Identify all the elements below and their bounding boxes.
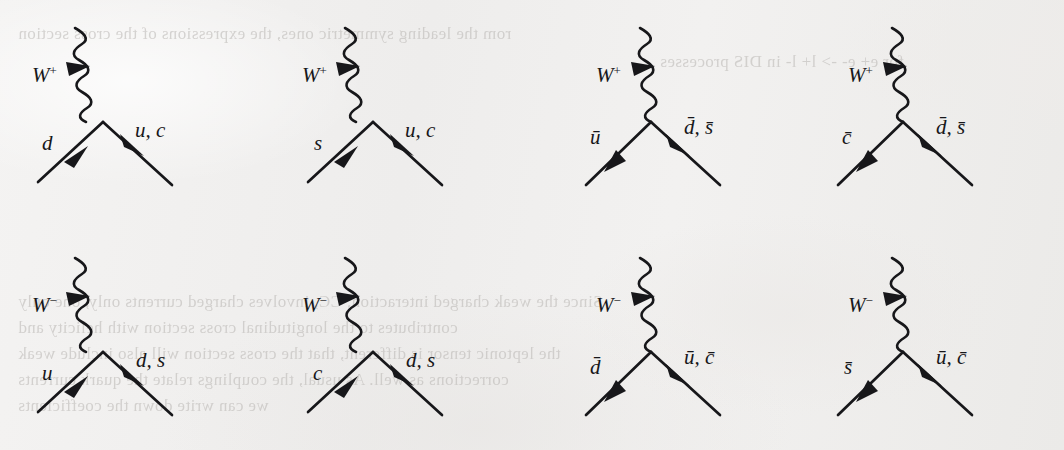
incoming-fermion-arrowhead — [334, 146, 358, 168]
w-boson-wavy-line — [344, 258, 361, 352]
incoming-fermion-label: c — [313, 361, 323, 385]
w-boson-label: W+ — [596, 63, 621, 87]
left-antifermion-arrowhead — [856, 380, 878, 402]
incoming-fermion-label: s — [314, 131, 322, 155]
left-antifermion-label: d̄ — [590, 355, 601, 379]
outgoing-fermion-label: d, s — [136, 348, 165, 372]
w-boson-wavy-line — [74, 28, 91, 122]
w-boson-wavy-line — [74, 258, 91, 352]
figure-page: rom the leading symmetric ones, the expr… — [0, 0, 1064, 450]
incoming-fermion-arrowhead — [334, 376, 358, 398]
w-boson-wavy-line — [891, 28, 908, 122]
left-antifermion-label: s̄ — [844, 355, 853, 379]
incoming-fermion-arrowhead — [64, 376, 88, 398]
w-boson-label: W+ — [848, 63, 873, 87]
w-boson-wavy-line — [344, 28, 361, 122]
left-antifermion-label: ū — [590, 125, 601, 149]
outgoing-fermion-label: u, c — [405, 118, 436, 142]
left-antifermion-arrowhead — [604, 150, 626, 172]
right-antifermion-label: ū, c̄ — [684, 345, 715, 369]
feynman-diagram-6: W− c d, s — [290, 252, 520, 437]
w-boson-wavy-line — [639, 258, 656, 352]
right-antifermion-label: ū, c̄ — [936, 345, 967, 369]
w-boson-label: W+ — [32, 63, 57, 87]
outgoing-fermion-label: d, s — [406, 348, 435, 372]
left-antifermion-label: c̄ — [842, 125, 852, 149]
w-boson-label: W− — [848, 293, 873, 317]
incoming-fermion-arrowhead — [64, 146, 88, 168]
w-boson-label: W+ — [302, 63, 327, 87]
incoming-fermion-label: d — [42, 131, 53, 155]
w-boson-wavy-line — [639, 28, 656, 122]
w-boson-label: W− — [32, 293, 57, 317]
right-antifermion-label: d̄, s̄ — [684, 115, 714, 139]
incoming-fermion-label: u — [42, 361, 53, 385]
feynman-diagram-1: W+ d u, c — [20, 22, 250, 207]
feynman-diagram-5: W− u d, s — [20, 252, 250, 437]
feynman-diagram-4: W+ c̄ d̄, s̄ — [812, 22, 1062, 207]
w-boson-label: W− — [596, 293, 621, 317]
feynman-diagram-2: W+ s u, c — [290, 22, 520, 207]
left-antifermion-arrowhead — [604, 380, 626, 402]
w-boson-wavy-line — [891, 258, 908, 352]
feynman-diagram-8: W− s̄ ū, c̄ — [812, 252, 1062, 437]
w-boson-label: W− — [302, 293, 327, 317]
outgoing-fermion-label: u, c — [135, 118, 166, 142]
right-antifermion-label: d̄, s̄ — [936, 115, 966, 139]
feynman-diagram-7: W− d̄ ū, c̄ — [560, 252, 810, 437]
feynman-diagram-3: W+ ū d̄, s̄ — [560, 22, 810, 207]
left-antifermion-arrowhead — [856, 150, 878, 172]
